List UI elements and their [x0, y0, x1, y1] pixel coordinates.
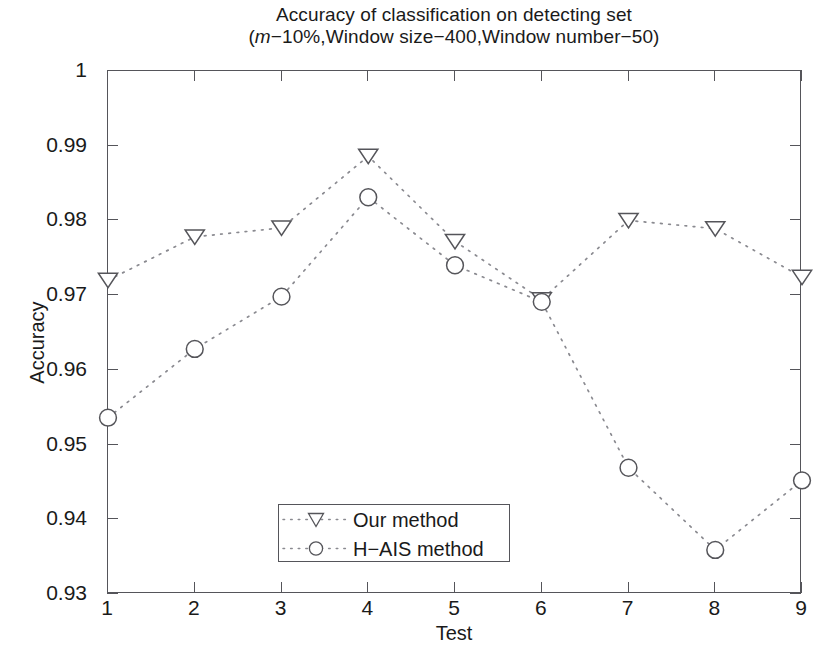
legend-label-hais-method: H−AIS method — [353, 539, 484, 559]
x-axis-label: Test — [107, 622, 801, 645]
circle-marker — [447, 257, 464, 274]
y-tick-mark — [107, 593, 118, 594]
x-tick-label: 9 — [781, 596, 821, 620]
y-tick-mark — [107, 369, 118, 370]
x-tick-mark — [281, 70, 282, 81]
x-tick-label: 7 — [608, 596, 648, 620]
circle-marker — [620, 459, 637, 476]
legend-item-our-method: Our method — [279, 505, 509, 534]
y-tick-label: 0.94 — [46, 506, 87, 530]
triangle-down-marker — [185, 230, 204, 244]
x-tick-mark — [367, 70, 368, 81]
y-tick-mark — [107, 518, 118, 519]
chart-title-line-1: Accuracy of classification on detecting … — [107, 4, 801, 26]
y-tick-mark — [790, 518, 801, 519]
legend-label-our-method: Our method — [353, 510, 459, 530]
x-tick-label: 6 — [521, 596, 561, 620]
triangle-down-marker — [792, 270, 811, 284]
circle-marker — [100, 409, 117, 426]
x-tick-mark — [801, 70, 802, 81]
x-tick-label: 8 — [694, 596, 734, 620]
y-tick-label: 0.96 — [46, 357, 87, 381]
x-tick-mark — [367, 582, 368, 593]
circle-marker — [707, 542, 724, 559]
y-tick-mark — [107, 70, 118, 71]
figure-canvas: Accuracy of classification on detecting … — [0, 0, 830, 654]
chart-legend: Our method H−AIS method — [278, 504, 510, 562]
plot-area: Our method H−AIS method — [107, 70, 801, 593]
x-tick-mark — [714, 70, 715, 81]
triangle-down-marker — [98, 273, 117, 287]
x-tick-mark — [194, 582, 195, 593]
chart-title-line-2: (m−10%,Window size−400,Window number−50) — [107, 26, 801, 48]
chart-title: Accuracy of classification on detecting … — [107, 4, 801, 49]
circle-marker — [794, 472, 811, 489]
y-tick-mark — [107, 219, 118, 220]
x-tick-label: 5 — [434, 596, 474, 620]
x-tick-label: 3 — [261, 596, 301, 620]
y-tick-mark — [107, 294, 118, 295]
x-tick-mark — [801, 582, 802, 593]
y-tick-label: 0.99 — [46, 133, 87, 157]
y-tick-label: 0.98 — [46, 207, 87, 231]
x-tick-mark — [194, 70, 195, 81]
y-tick-mark — [107, 145, 118, 146]
circle-marker-icon — [279, 534, 353, 563]
y-tick-mark — [790, 70, 801, 71]
title-params: −10%,Window size−400,Window number−50) — [271, 26, 660, 47]
x-tick-mark — [454, 582, 455, 593]
x-tick-label: 2 — [174, 596, 214, 620]
x-tick-mark — [541, 582, 542, 593]
y-tick-mark — [790, 219, 801, 220]
x-tick-mark — [541, 70, 542, 81]
y-tick-mark — [790, 145, 801, 146]
y-tick-label: 0.95 — [46, 432, 87, 456]
y-tick-label: 0.93 — [46, 581, 87, 605]
x-tick-mark — [454, 70, 455, 81]
y-tick-mark — [790, 369, 801, 370]
x-tick-mark — [628, 582, 629, 593]
y-tick-mark — [107, 444, 118, 445]
y-tick-mark — [790, 444, 801, 445]
x-tick-mark — [107, 70, 108, 81]
y-tick-mark — [790, 593, 801, 594]
y-tick-label: 1 — [75, 58, 87, 82]
triangle-down-marker — [706, 222, 725, 236]
x-tick-label: 4 — [347, 596, 387, 620]
circle-marker — [533, 293, 550, 310]
circle-marker — [186, 341, 203, 358]
x-tick-mark — [281, 582, 282, 593]
x-tick-label: 1 — [87, 596, 127, 620]
x-tick-mark — [714, 582, 715, 593]
y-tick-label: 0.97 — [46, 282, 87, 306]
circle-marker — [273, 288, 290, 305]
series-line — [108, 156, 802, 299]
series-our-method — [98, 149, 811, 307]
x-tick-mark — [107, 582, 108, 593]
y-tick-mark — [790, 294, 801, 295]
triangle-down-marker-icon — [279, 505, 353, 534]
circle-marker — [360, 189, 377, 206]
legend-item-hais-method: H−AIS method — [279, 534, 509, 563]
title-italic-m: m — [255, 26, 271, 47]
triangle-down-marker — [272, 221, 291, 235]
x-tick-mark — [628, 70, 629, 81]
